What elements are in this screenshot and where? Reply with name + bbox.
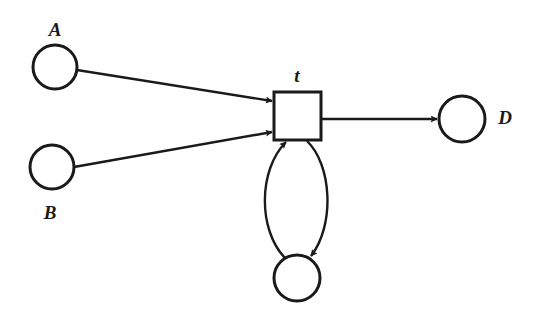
place-b [30,145,74,189]
label-b: B [43,202,57,223]
arc-t-to-p [307,141,327,256]
transition-t [274,92,321,140]
place-d [439,96,485,142]
place-loop [274,255,320,301]
arc-p-to-t [265,142,286,258]
label-d: D [497,107,512,128]
petri-net-diagram: A B D t [0,0,535,319]
label-t: t [294,65,300,86]
arc-b-to-t [74,132,272,167]
place-a [33,45,77,89]
label-a: A [48,19,62,40]
arc-a-to-t [77,70,272,101]
